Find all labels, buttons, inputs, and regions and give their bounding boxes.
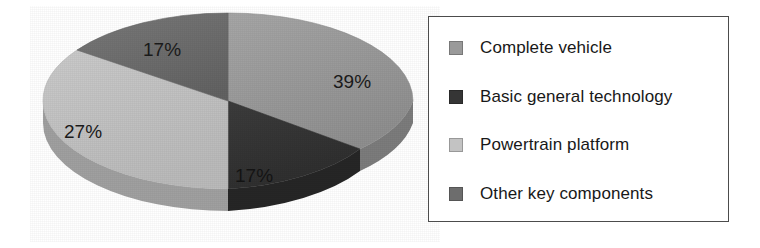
pie-chart-svg: 39% 17% 27% 17% [30, 6, 440, 242]
legend-swatch-icon-powertrain-platform [449, 138, 463, 152]
chart-legend: Complete vehicle Basic general technolog… [428, 16, 729, 222]
legend-label-powertrain-platform: Powertrain platform [480, 135, 629, 155]
legend-swatch-icon-other-key-components [449, 187, 463, 201]
pie-label-basic-general-technology: 17% [235, 165, 273, 186]
legend-swatch-icon-complete-vehicle [449, 41, 463, 55]
legend-item-basic-general-technology[interactable]: Basic general technology [449, 84, 711, 110]
legend-item-complete-vehicle[interactable]: Complete vehicle [449, 35, 711, 61]
legend-item-powertrain-platform[interactable]: Powertrain platform [449, 132, 711, 158]
pie-label-complete-vehicle: 39% [333, 71, 371, 92]
pie-chart: 39% 17% 27% 17% [30, 6, 440, 242]
pie-label-powertrain-platform: 27% [64, 121, 102, 142]
legend-item-list: Complete vehicle Basic general technolog… [449, 35, 711, 207]
legend-item-other-key-components[interactable]: Other key components [449, 181, 711, 207]
legend-label-complete-vehicle: Complete vehicle [480, 38, 612, 58]
legend-label-basic-general-technology: Basic general technology [480, 87, 672, 107]
pie-label-other-key-components: 17% [143, 39, 181, 60]
pie-chart-figure: 39% 17% 27% 17% Complete vehicle Basic g… [0, 0, 760, 248]
legend-label-other-key-components: Other key components [480, 184, 653, 204]
legend-swatch-icon-basic-general-technology [449, 90, 463, 104]
